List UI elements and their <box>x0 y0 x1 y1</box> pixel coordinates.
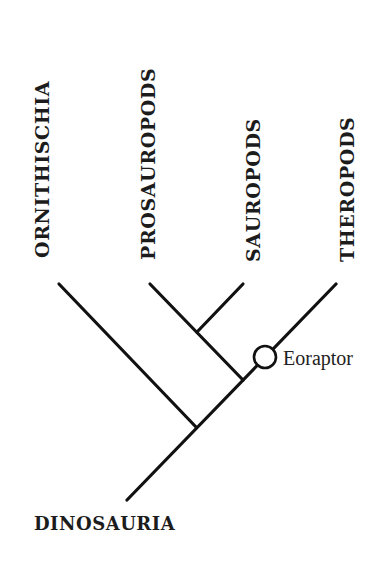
branch-sauropods <box>197 284 243 332</box>
eoraptor-label: Eoraptor <box>283 347 353 370</box>
taxon-label-sauropods: SAUROPODS <box>242 118 264 262</box>
taxon-label-prosauropods: PROSAUROPODS <box>137 68 159 260</box>
cladogram: ORNITHISCHIA PROSAUROPODS SAUROPODS THER… <box>0 0 392 561</box>
branch-ornithischia <box>59 284 196 427</box>
taxon-label-ornithischia: ORNITHISCHIA <box>31 81 53 258</box>
branch-main-stem <box>127 284 336 500</box>
root-label-dinosauria: DINOSAURIA <box>34 513 176 534</box>
eoraptor-marker-icon <box>254 346 276 368</box>
taxon-label-theropods: THEROPODS <box>336 117 358 262</box>
